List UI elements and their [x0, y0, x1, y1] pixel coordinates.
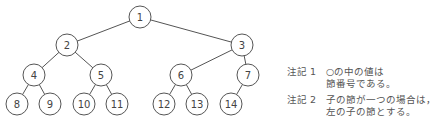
svg-text:12: 12: [158, 99, 171, 110]
node-4: 4: [23, 64, 45, 86]
svg-text:11: 11: [111, 99, 124, 110]
notes: 注記 1 ○の中の値は 節番号である。 注記 2 子の節が一つの場合は， 左の子…: [287, 66, 434, 122]
note-2-label: 注記 2: [287, 94, 326, 118]
node-2: 2: [56, 34, 78, 56]
note-1: 注記 1 ○の中の値は 節番号である。: [287, 66, 434, 90]
svg-text:8: 8: [14, 99, 20, 110]
svg-text:14: 14: [225, 99, 238, 110]
svg-text:6: 6: [178, 70, 184, 81]
svg-text:10: 10: [78, 99, 91, 110]
node-3: 3: [231, 34, 253, 56]
node-7: 7: [237, 64, 259, 86]
svg-text:3: 3: [239, 40, 245, 51]
svg-text:9: 9: [47, 99, 53, 110]
node-9: 9: [39, 93, 61, 115]
note-1-line-2: 節番号である。: [326, 78, 396, 90]
node-6: 6: [170, 64, 192, 86]
note-2-line-1: 子の節が一つの場合は，: [326, 94, 434, 106]
svg-text:4: 4: [31, 70, 37, 81]
node-8: 8: [6, 93, 28, 115]
note-2: 注記 2 子の節が一つの場合は， 左の子の節とする。: [287, 94, 434, 118]
node-14: 14: [220, 93, 242, 115]
node-13: 13: [186, 93, 208, 115]
node-1: 1: [129, 6, 151, 28]
svg-text:5: 5: [98, 70, 104, 81]
note-1-line-1: ○の中の値は: [326, 66, 396, 78]
edge-1-2: [67, 17, 140, 45]
svg-text:2: 2: [64, 40, 70, 51]
svg-text:7: 7: [245, 70, 251, 81]
note-1-label: 注記 1: [287, 66, 326, 90]
svg-text:13: 13: [191, 99, 204, 110]
node-12: 12: [153, 93, 175, 115]
node-5: 5: [90, 64, 112, 86]
node-10: 10: [73, 93, 95, 115]
node-11: 11: [106, 93, 128, 115]
svg-text:1: 1: [137, 12, 143, 23]
note-2-line-2: 左の子の節とする。: [326, 106, 434, 118]
edge-1-3: [140, 17, 242, 45]
